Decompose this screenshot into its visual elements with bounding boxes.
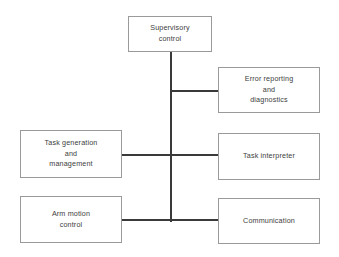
connector-trunk-vertical xyxy=(170,52,172,222)
node-error-reporting-and-diagnostics-label: Error reporting and diagnostics xyxy=(241,74,298,107)
node-error-reporting-and-diagnostics: Error reporting and diagnostics xyxy=(218,67,320,113)
node-supervisory-control-label: Supervisory control xyxy=(146,23,194,45)
node-arm-motion-control-label: Arm motion control xyxy=(48,209,94,231)
diagram-canvas: Supervisory control Error reporting and … xyxy=(0,0,339,257)
node-arm-motion-control: Arm motion control xyxy=(20,196,122,243)
connector-communication-branch xyxy=(121,219,219,221)
node-task-generation-and-management: Task generation and management xyxy=(20,130,122,178)
node-communication-label: Communication xyxy=(239,216,299,227)
connector-task-interpreter-branch xyxy=(121,154,219,156)
node-supervisory-control: Supervisory control xyxy=(128,16,212,52)
node-task-interpreter-label: Task interpreter xyxy=(239,151,299,162)
connector-error-reporting-branch xyxy=(170,90,219,92)
node-task-interpreter: Task interpreter xyxy=(218,133,320,180)
node-task-generation-and-management-label: Task generation and management xyxy=(41,138,102,171)
node-communication: Communication xyxy=(218,198,320,244)
